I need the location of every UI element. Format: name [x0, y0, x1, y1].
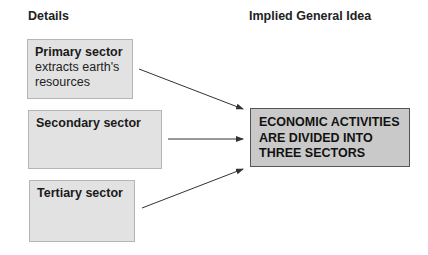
arrow-tertiary: [142, 169, 243, 208]
arrows-layer: [0, 0, 428, 255]
arrow-primary: [139, 69, 243, 109]
